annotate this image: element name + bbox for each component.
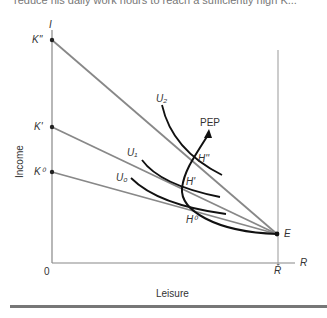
budget-line-k-double-prime [52, 40, 277, 234]
u1-label: U₁ [127, 147, 137, 158]
x-axis-symbol: R [300, 257, 307, 268]
h-prime-label: H' [186, 176, 195, 187]
x-axis-label: Leisure [156, 288, 189, 299]
h-double-prime-label: H'' [198, 153, 209, 164]
h-zero-label: H⁰ [186, 214, 197, 225]
k-prime-label: K' [34, 121, 43, 132]
y-axis-label: Income [14, 145, 25, 178]
e-label: E [284, 228, 291, 239]
bottom-rule-divider [10, 305, 327, 308]
pep-label: PEP [200, 117, 220, 128]
k-zero-label: K⁰ [34, 166, 45, 177]
u0-label: U₀ [116, 172, 127, 183]
origin-label: 0 [44, 266, 50, 277]
u2-label: U₂ [156, 93, 167, 104]
k-prime-point [50, 125, 54, 129]
y-axis-symbol: I [49, 19, 52, 30]
indifference-curve-u2 [162, 105, 222, 175]
r-bar-label: R̄ [274, 265, 281, 276]
pep-arrowhead [204, 129, 212, 138]
k-double-prime-label: K'' [32, 34, 43, 45]
k-zero-point [50, 170, 54, 174]
k-double-prime-point [50, 38, 54, 42]
